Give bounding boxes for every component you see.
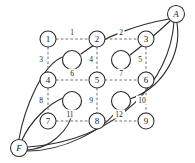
edge-label-e11: 11	[66, 110, 73, 119]
grid-node-label-7: 7	[46, 116, 51, 126]
edge-label-e7: 7	[119, 69, 123, 78]
grid-node-label-2: 2	[95, 34, 100, 44]
grid-node-label-1: 1	[46, 34, 51, 44]
terminal-node-label-F: F	[15, 143, 22, 153]
junction-node-j1[interactable]	[63, 51, 82, 70]
edge-label-e3: 3	[39, 55, 43, 64]
grid-node-label-3: 3	[144, 34, 149, 44]
terminal-node-label-A: A	[172, 9, 179, 19]
edge-label-e8: 8	[39, 96, 43, 105]
edge-label-e10: 10	[138, 96, 146, 105]
grid-node-label-5: 5	[95, 75, 100, 85]
diagram-canvas: 123456789AF 123456789101112	[0, 0, 195, 163]
edge-label-e9: 9	[89, 96, 93, 105]
edge-label-e1: 1	[70, 28, 74, 37]
junction-node-j3[interactable]	[63, 92, 82, 111]
grid-node-label-8: 8	[95, 116, 100, 126]
grid-node-label-9: 9	[144, 116, 149, 126]
junction-node-j4[interactable]	[112, 92, 131, 111]
edge-label-e12: 12	[115, 110, 123, 119]
edge-label-e2: 2	[119, 28, 123, 37]
graph-svg: 123456789AF 123456789101112	[0, 0, 195, 163]
edge-label-e4: 4	[89, 55, 93, 64]
grid-node-label-6: 6	[144, 75, 149, 85]
edge-label-e6: 6	[70, 69, 74, 78]
edge-label-e5: 5	[138, 55, 142, 64]
junction-node-j2[interactable]	[112, 51, 131, 70]
grid-node-label-4: 4	[46, 75, 51, 85]
